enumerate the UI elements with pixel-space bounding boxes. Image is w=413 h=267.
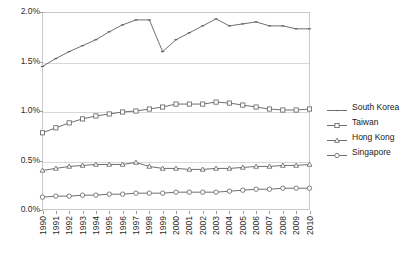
x-axis-tick-mark: [83, 211, 84, 214]
x-axis-tick: 2010: [304, 211, 316, 267]
x-axis-tick-label: 2001: [185, 216, 194, 235]
x-axis-tick-label: 1998: [145, 216, 154, 235]
data-point: [147, 191, 151, 195]
x-axis-tick-label: 1992: [65, 216, 74, 235]
y-axis-tick-mark: [40, 62, 43, 63]
x-axis-tick-label: 2010: [305, 216, 314, 235]
data-point: [201, 190, 205, 194]
x-axis-tick-mark: [96, 211, 97, 214]
x-axis-tick: 2005: [237, 211, 249, 267]
x-axis-tick: 1996: [117, 211, 129, 267]
data-point: [307, 186, 311, 190]
data-point: [174, 102, 178, 106]
data-point: [281, 186, 285, 190]
x-axis-tick-mark: [203, 211, 204, 214]
x-axis-tick: 2007: [263, 211, 275, 267]
series-hong-kong: [40, 160, 312, 172]
x-axis-tick-label: 2000: [172, 216, 181, 235]
x-axis-tick-mark: [163, 211, 164, 214]
x-axis-tick-mark: [69, 211, 70, 214]
x-axis-tick: 1990: [37, 211, 49, 267]
data-point: [67, 121, 71, 125]
series-taiwan: [40, 100, 311, 135]
line-chart: 2.0%1.5%1.0%0.5%0.0% 1990199119921993199…: [0, 0, 413, 267]
data-point: [201, 102, 205, 106]
y-axis-tick-mark: [40, 111, 43, 112]
data-point: [241, 188, 245, 192]
x-axis-tick-mark: [56, 211, 57, 214]
data-point: [134, 191, 138, 195]
legend: South KoreaTaiwanHong KongSingapore: [326, 100, 412, 160]
x-axis-tick-mark: [43, 211, 44, 214]
x-axis-tick-mark: [176, 211, 177, 214]
x-axis-tick-label: 2007: [265, 216, 274, 235]
x-axis-tick-label: 1995: [105, 216, 114, 235]
x-axis-tick-mark: [243, 211, 244, 214]
data-point: [161, 105, 165, 109]
series-singapore: [40, 186, 311, 199]
data-point: [80, 193, 84, 197]
legend-item-singapore[interactable]: Singapore: [326, 145, 412, 160]
x-axis-tick-label: 1990: [38, 216, 47, 235]
legend-label: Taiwan: [352, 118, 378, 127]
data-point: [214, 100, 218, 104]
legend-item-hong-kong[interactable]: Hong Kong: [326, 130, 412, 145]
y-axis-tick-mark: [40, 12, 43, 13]
x-axis-tick-mark: [229, 211, 230, 214]
data-point: [107, 112, 111, 116]
data-point: [160, 191, 164, 195]
data-point: [307, 107, 311, 111]
x-axis-tick-label: 2004: [225, 216, 234, 235]
x-axis-tick-label: 2005: [238, 216, 247, 235]
y-axis-tick-label: 0.5%: [2, 156, 40, 165]
x-axis-tick-mark: [256, 211, 257, 214]
data-point: [94, 114, 98, 118]
x-axis-tick-mark: [109, 211, 110, 214]
data-point: [254, 187, 258, 191]
legend-item-taiwan[interactable]: Taiwan: [326, 115, 412, 130]
data-point: [80, 117, 84, 121]
data-point: [134, 109, 138, 113]
data-point: [134, 160, 139, 164]
x-axis-tick-label: 1996: [118, 216, 127, 235]
x-axis-tick: 2008: [277, 211, 289, 267]
data-point: [120, 192, 124, 196]
x-axis-tick-label: 1999: [158, 216, 167, 235]
data-point: [121, 110, 125, 114]
x-axis-tick: 2004: [223, 211, 235, 267]
data-point: [241, 103, 245, 107]
x-axis-tick-mark: [269, 211, 270, 214]
legend-item-south-korea[interactable]: South Korea: [326, 100, 412, 115]
x-axis-tick-label: 2008: [278, 216, 287, 235]
y-axis-tick-mark: [40, 161, 43, 162]
x-axis-tick: 1992: [63, 211, 75, 267]
x-axis-tick-label: 2002: [198, 216, 207, 235]
x-axis-tick-mark: [283, 211, 284, 214]
legend-marker-icon: [326, 147, 348, 158]
x-axis-tick: 1994: [90, 211, 102, 267]
x-axis-tick: 2006: [250, 211, 262, 267]
x-axis-tick: 2000: [170, 211, 182, 267]
y-axis-tick-label: 0.0%: [2, 205, 40, 214]
y-axis-tick-label: 1.0%: [2, 106, 40, 115]
data-point: [40, 195, 44, 199]
data-point: [174, 190, 178, 194]
x-axis-tick-mark: [189, 211, 190, 214]
x-axis-tick-label: 1991: [51, 216, 60, 235]
data-point: [187, 190, 191, 194]
x-axis-tick: 2003: [210, 211, 222, 267]
legend-label: Hong Kong: [352, 133, 395, 142]
x-axis-tick: 2009: [290, 211, 302, 267]
legend-label: Singapore: [352, 148, 391, 157]
x-axis-tick: 2002: [197, 211, 209, 267]
data-point: [40, 131, 44, 135]
data-point: [214, 190, 218, 194]
x-axis-tick-label: 1993: [78, 216, 87, 235]
x-axis-tick-label: 1997: [131, 216, 140, 235]
x-axis-tick-mark: [136, 211, 137, 214]
x-axis-tick-label: 2003: [212, 216, 221, 235]
data-point: [267, 187, 271, 191]
x-axis-tick-mark: [123, 211, 124, 214]
x-axis-tick: 1997: [130, 211, 142, 267]
legend-label: South Korea: [352, 103, 399, 112]
